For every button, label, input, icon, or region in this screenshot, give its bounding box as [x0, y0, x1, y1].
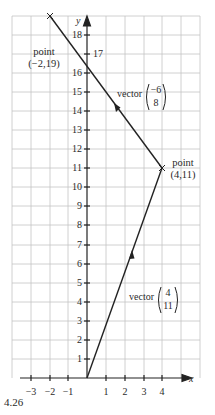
svg-text:vector: vector [129, 291, 155, 302]
vector-4-11-line [87, 168, 162, 378]
vector-label: vector −6 8 [117, 84, 166, 110]
svg-text:(−2,19): (−2,19) [28, 58, 60, 70]
y-axis-label: y [75, 15, 81, 26]
svg-text:17: 17 [93, 48, 103, 59]
svg-text:2: 2 [77, 334, 82, 345]
x-axis-label: x [188, 373, 194, 384]
svg-text:5: 5 [77, 277, 82, 288]
svg-text:7: 7 [77, 239, 82, 250]
svg-text:15: 15 [72, 86, 82, 97]
svg-text:11: 11 [72, 162, 82, 173]
svg-text:(4,11): (4,11) [171, 169, 196, 181]
svg-text:12: 12 [72, 143, 82, 154]
y-axis-arrow-icon [84, 16, 91, 26]
svg-text:−1: −1 [63, 386, 74, 397]
svg-text:1: 1 [104, 386, 109, 397]
svg-text:8: 8 [77, 219, 82, 230]
svg-text:13: 13 [72, 124, 82, 135]
svg-text:11: 11 [163, 300, 173, 311]
svg-text:16: 16 [72, 67, 82, 78]
point-label: point (4,11) [171, 157, 196, 181]
svg-text:6: 6 [77, 258, 82, 269]
svg-text:14: 14 [72, 105, 82, 116]
svg-text:point: point [172, 157, 194, 168]
svg-text:4: 4 [160, 386, 165, 397]
point-label: point (−2,19) [28, 46, 60, 70]
svg-text:4: 4 [77, 296, 82, 307]
svg-text:−6: −6 [151, 84, 162, 95]
svg-text:9: 9 [77, 200, 82, 211]
figure-caption: 4.26 [4, 396, 23, 408]
svg-text:2: 2 [123, 386, 128, 397]
vector-label: vector 4 11 [129, 287, 178, 313]
svg-text:−2: −2 [45, 386, 56, 397]
svg-text:18: 18 [72, 29, 82, 40]
svg-text:4: 4 [166, 287, 171, 298]
svg-text:10: 10 [72, 181, 82, 192]
svg-text:1: 1 [77, 353, 82, 364]
svg-text:vector: vector [117, 88, 143, 99]
vector-diagram: x y −3 −2 −1 1 2 3 4 1 2 3 4 5 6 7 8 9 1… [0, 0, 215, 415]
x-tick-labels: −3 −2 −1 1 2 3 4 [26, 386, 165, 397]
svg-text:8: 8 [154, 97, 159, 108]
svg-text:3: 3 [142, 386, 147, 397]
svg-text:point: point [33, 46, 55, 57]
arrowhead-icon [129, 250, 135, 259]
svg-text:−3: −3 [26, 386, 37, 397]
svg-text:3: 3 [77, 315, 82, 326]
